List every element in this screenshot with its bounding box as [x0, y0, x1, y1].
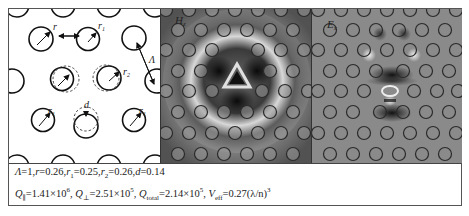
label-shift-d: d — [84, 99, 90, 110]
schematic-panel: r r1 r2 Λ d r1 r1 — [9, 9, 160, 163]
hz-field-map: Hz — [161, 9, 312, 163]
panels-row: r r1 r2 Λ d r1 r1 — [9, 9, 461, 164]
hz-field-panel: Hz — [160, 9, 312, 163]
cavity-performance: Q∥=1.41×106, Q⊥=2.51×105, Qtotal=2.14×10… — [15, 186, 271, 202]
geometry-parameters: Λ=1,r=0.26,r1=0.25,r2=0.26,d=0.14 — [15, 166, 165, 180]
parameters-caption: Λ=1,r=0.26,r1=0.25,r2=0.26,d=0.14 Q∥=1.4… — [9, 163, 461, 205]
ex-field-map: Ex — [312, 9, 462, 163]
label-r: r — [53, 21, 57, 32]
ex-field-panel: Ex — [311, 9, 462, 163]
label-r2: r2 — [123, 66, 130, 78]
label-r1: r1 — [98, 20, 105, 32]
photonic-crystal-figure: r r1 r2 Λ d r1 r1 — [8, 8, 462, 206]
label-lattice-constant: Λ — [148, 54, 155, 65]
label-r1-left: r1 — [48, 105, 55, 117]
label-r1-right: r1 — [139, 105, 146, 117]
cavity-schematic: r r1 r2 Λ d r1 r1 — [9, 9, 160, 163]
